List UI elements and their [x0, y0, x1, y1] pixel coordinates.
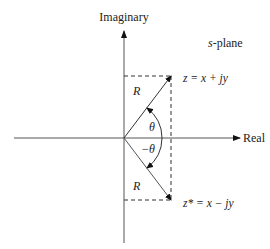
- point-z-label: z = x + jy: [182, 72, 229, 85]
- magnitude-label-upper: R: [132, 84, 141, 98]
- magnitude-label-lower: R: [132, 179, 141, 193]
- plane-label: s-plane: [208, 36, 243, 50]
- point-z-eq: = x + jy: [187, 72, 228, 85]
- imaginary-axis-label: Imaginary: [99, 10, 148, 24]
- s-plane-diagram: Imaginary Real s-plane z = x + jy z* = x…: [0, 0, 270, 249]
- vector-z: [124, 76, 171, 138]
- real-axis-label: Real: [243, 131, 266, 145]
- plane-label-rest: -plane: [213, 36, 243, 50]
- angle-label-theta: θ: [149, 120, 155, 134]
- point-z-conj-var: z*: [182, 197, 193, 209]
- angle-label-neg-theta: −θ: [141, 142, 155, 156]
- point-z-conj-eq: = x − jy: [193, 197, 234, 210]
- point-z-conj-label: z* = x − jy: [182, 197, 235, 210]
